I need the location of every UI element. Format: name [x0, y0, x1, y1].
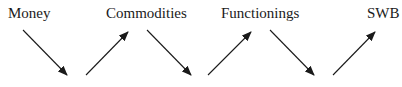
arrow-up-to-swb-icon — [333, 32, 375, 75]
arrow-money-down-icon — [23, 30, 67, 75]
arrows-layer — [0, 0, 402, 87]
causal-chain-diagram: Money Commodities Functionings SWB — [0, 0, 402, 87]
arrow-up-to-commodities-icon — [86, 32, 128, 75]
arrow-commodities-down-icon — [147, 30, 191, 75]
arrow-up-to-functionings-icon — [208, 32, 251, 75]
arrow-functionings-down-icon — [270, 30, 314, 75]
